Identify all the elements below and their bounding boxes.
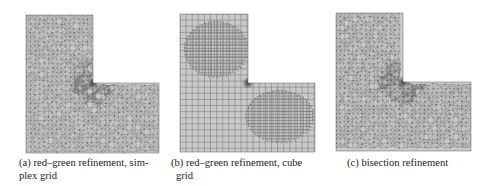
mesh-bisection <box>0 0 492 160</box>
caption-b-line1: (b) red–green refinement, cube <box>171 157 302 168</box>
caption-a-line2: plex grid <box>19 170 148 183</box>
caption-a: (a) red–green refinement, sim- plex grid <box>19 157 148 182</box>
caption-c-line1: (c) bisection refinement <box>347 157 448 168</box>
caption-c: (c) bisection refinement <box>347 157 448 170</box>
caption-b-line2: grid <box>171 170 302 183</box>
panel-c-bisection-mesh <box>0 0 492 160</box>
caption-b: (b) red–green refinement, cube grid <box>171 157 302 182</box>
caption-a-line1: (a) red–green refinement, sim- <box>19 157 148 168</box>
